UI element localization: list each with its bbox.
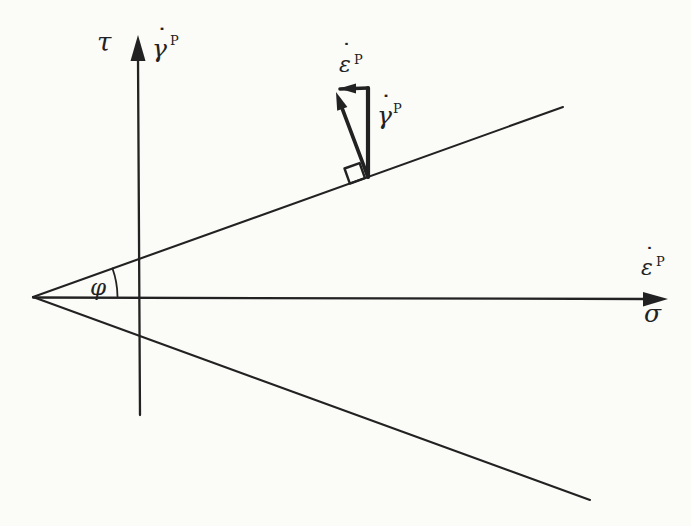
- resultant-vector-arrowhead-icon: [336, 92, 347, 111]
- tau-axis-label: τ: [97, 27, 112, 57]
- normal-component-arrowhead-icon: [339, 84, 356, 94]
- horizontal-axis: [33, 298, 646, 300]
- epsilon-strain-axis-label-overdot: ˙: [645, 244, 654, 265]
- shear-component-label-superscript: P: [393, 101, 402, 116]
- normal-component-label-superscript: P: [354, 52, 363, 67]
- vertical-axis-arrowhead-icon: [131, 35, 146, 61]
- friction-angle-arc: [113, 269, 118, 297]
- epsilon-strain-axis-label-superscript: P: [656, 254, 665, 269]
- sigma-axis-label: σ: [644, 299, 662, 328]
- shear-component-label-overdot: ˙: [381, 91, 391, 115]
- gamma-strain-axis-label-overdot: ˙: [157, 24, 167, 48]
- yield-cone-diagram: τ γ ˙ P ε ˙ P γ ˙ P ε ˙ P σ φ: [0, 0, 691, 526]
- scanned-figure-page: τ γ ˙ P ε ˙ P γ ˙ P ε ˙ P σ φ: [0, 0, 691, 526]
- normal-component-label-overdot: ˙: [342, 40, 351, 61]
- lower-yield-line: [33, 297, 590, 500]
- vertical-axis: [138, 58, 140, 415]
- right-angle-marker: [345, 163, 366, 184]
- epsilon-strain-axis-label: ε ˙ P: [641, 244, 665, 280]
- gamma-strain-axis-label: γ ˙ P: [152, 24, 179, 63]
- shear-component-label: γ ˙ P: [377, 91, 402, 130]
- friction-angle-label: φ: [90, 274, 107, 300]
- normal-component-label: ε ˙ P: [339, 40, 363, 77]
- gamma-strain-axis-label-superscript: P: [170, 33, 179, 48]
